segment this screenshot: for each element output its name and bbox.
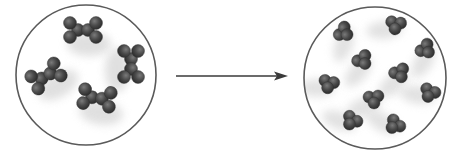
- atom: [64, 31, 77, 44]
- atom: [132, 71, 145, 84]
- atom: [118, 45, 131, 58]
- after-container: [299, 7, 446, 149]
- reaction-arrow: [176, 72, 288, 81]
- atom: [368, 97, 380, 109]
- diagram-stage: [0, 0, 449, 161]
- before-container: [16, 5, 156, 145]
- atom: [132, 45, 145, 58]
- large-molecules: [22, 17, 144, 115]
- molecule-transformation-diagram: [0, 0, 449, 161]
- atom: [90, 31, 103, 44]
- atom: [90, 17, 103, 30]
- atom: [64, 17, 77, 30]
- atom: [118, 71, 131, 84]
